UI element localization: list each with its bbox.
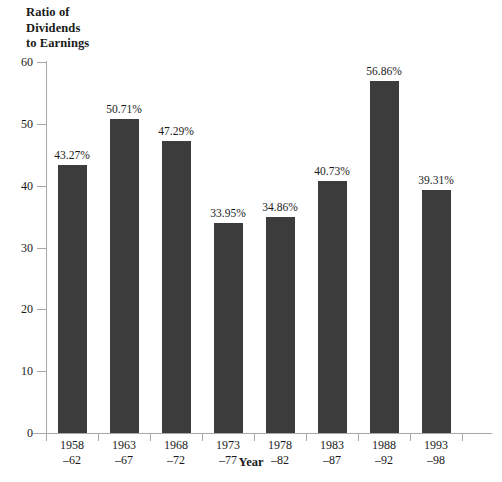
bar-value-label: 43.27% [37, 149, 107, 161]
bar-value-label: 34.86% [245, 201, 315, 213]
y-axis-tick-label: 60 [3, 56, 33, 68]
y-axis-line [46, 61, 47, 434]
y-axis-tick-label: 0 [3, 427, 33, 439]
y-axis-tick-label: 20 [3, 303, 33, 315]
y-axis-tick-label: 50 [3, 118, 33, 130]
y-axis-tick-label: 30 [3, 242, 33, 254]
y-axis-title: Ratio of Dividends to Earnings [26, 5, 89, 52]
y-axis-tick-label: 40 [3, 180, 33, 192]
y-axis-tick [37, 371, 46, 372]
y-axis-tick [37, 124, 46, 125]
bar [162, 141, 191, 433]
y-axis-tick [37, 309, 46, 310]
bar [318, 181, 347, 433]
bar [266, 217, 295, 433]
bar-value-label: 47.29% [141, 125, 211, 137]
bar [214, 223, 243, 433]
bar-value-label: 50.71% [89, 103, 159, 115]
y-axis-tick [37, 248, 46, 249]
bar [58, 165, 87, 433]
bar [422, 190, 451, 433]
y-axis-tick [37, 186, 46, 187]
x-axis-line [33, 433, 492, 434]
bar-chart: Ratio of Dividends to Earnings 010203040… [0, 0, 502, 482]
y-axis-tick [37, 433, 46, 434]
bar-value-label: 56.86% [349, 65, 419, 77]
y-axis-tick [37, 62, 46, 63]
bar [370, 81, 399, 433]
bar-value-label: 39.31% [401, 174, 471, 186]
x-axis-title: Year [0, 455, 502, 469]
bar-value-label: 40.73% [297, 165, 367, 177]
bar [110, 119, 139, 433]
y-axis-tick-label: 10 [3, 365, 33, 377]
x-tick-label-start-year: 1993 [401, 438, 471, 453]
